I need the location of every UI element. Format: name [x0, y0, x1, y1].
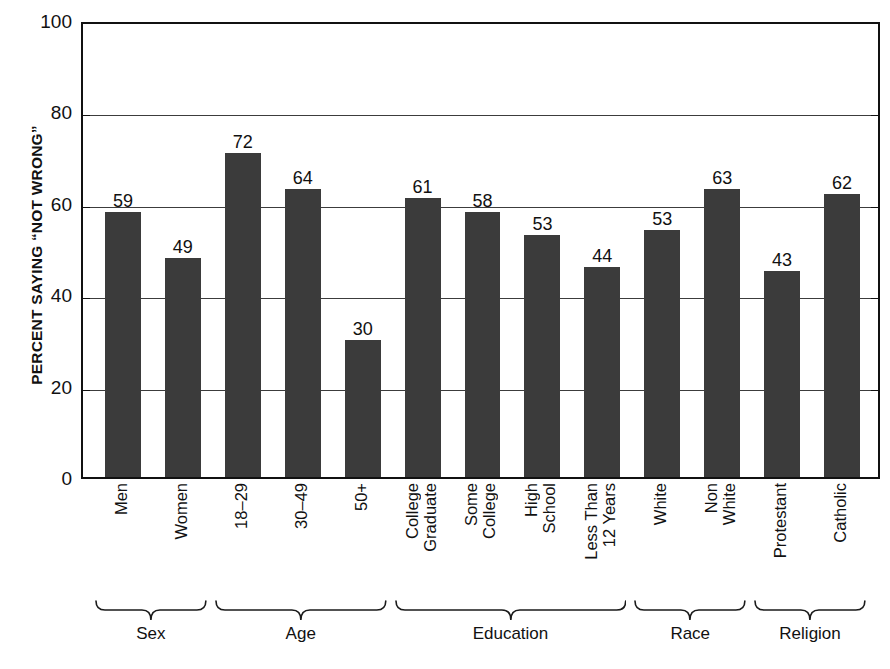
x-axis-group: Religion: [754, 600, 866, 669]
bar: [225, 153, 261, 477]
bar-value-label: 58: [453, 192, 513, 210]
x-axis-label-line: Graduate: [421, 483, 439, 552]
bar-value-label: 44: [572, 247, 632, 265]
y-axis-tick-40: 40: [26, 286, 72, 305]
x-axis-label: Less Than12 Years: [570, 483, 630, 595]
x-axis-label: White: [630, 483, 690, 595]
bar-chart: PERCENT SAYING “NOT WRONG” 020406080100 …: [0, 0, 890, 669]
x-axis-label-line: Non: [702, 483, 720, 513]
group-brace-icon: [634, 600, 746, 622]
x-axis-label: 50+: [331, 483, 391, 595]
bar: [644, 230, 680, 477]
x-axis-label-line: College: [480, 483, 498, 539]
bar-value-label: 64: [273, 169, 333, 187]
bars-container: 59497264306158534453634362: [83, 24, 878, 477]
x-axis-label: 30–49: [271, 483, 331, 595]
bar: [465, 212, 501, 477]
bar: [345, 340, 381, 477]
x-axis-label-line: White: [720, 483, 738, 525]
x-axis-label-line: Some: [462, 483, 480, 526]
x-axis-label-line: Women: [172, 483, 190, 540]
bar-value-label: 53: [632, 210, 692, 228]
x-axis-label: NonWhite: [690, 483, 750, 595]
x-axis-label-line: White: [651, 483, 669, 525]
x-axis-label-line: Protestant: [771, 483, 789, 558]
bar-value-label: 63: [692, 169, 752, 187]
x-axis-label-line: 50+: [352, 483, 370, 511]
bar: [405, 198, 441, 477]
x-axis-label: Men: [91, 483, 151, 595]
x-axis-label-line: Catholic: [831, 483, 849, 543]
bar: [584, 267, 620, 477]
x-axis-label-line: Men: [112, 483, 130, 515]
y-axis-tick-0: 0: [26, 469, 72, 488]
plot-area: 59497264306158534453634362: [81, 22, 880, 479]
bar-value-label: 53: [512, 215, 572, 233]
x-axis-label-line: 18–29: [232, 483, 250, 529]
x-axis-group: Sex: [95, 600, 207, 669]
x-axis-label: 18–29: [211, 483, 271, 595]
y-axis-tick-60: 60: [26, 195, 72, 214]
bar-value-label: 49: [153, 238, 213, 256]
bar-value-label: 30: [333, 320, 393, 338]
x-axis-label: Catholic: [810, 483, 870, 595]
bar-value-label: 62: [812, 174, 872, 192]
bar: [285, 189, 321, 477]
group-brace-icon: [395, 600, 627, 622]
x-axis-group: Race: [634, 600, 746, 669]
y-axis-tick-20: 20: [26, 378, 72, 397]
y-axis-tick-labels: 020406080100: [22, 0, 72, 669]
x-axis-label: Women: [151, 483, 211, 595]
y-axis-tick-80: 80: [26, 103, 72, 122]
x-axis-label: HighSchool: [510, 483, 570, 595]
x-axis-label: SomeCollege: [451, 483, 511, 595]
group-label: Race: [634, 624, 746, 644]
y-axis-tick-100: 100: [26, 12, 72, 31]
bar: [105, 212, 141, 477]
x-axis-group: Education: [395, 600, 627, 669]
bar-value-label: 59: [93, 192, 153, 210]
bar: [165, 258, 201, 477]
bar-value-label: 72: [213, 133, 273, 151]
x-axis-label-line: 30–49: [292, 483, 310, 529]
bar-value-label: 43: [752, 251, 812, 269]
bar: [824, 194, 860, 477]
x-axis-label-line: High: [522, 483, 540, 517]
x-axis-label: Protestant: [750, 483, 810, 595]
x-axis-group: Age: [215, 600, 387, 669]
bar: [524, 235, 560, 477]
x-axis-label-line: College: [403, 483, 421, 539]
bar-value-label: 61: [393, 178, 453, 196]
x-axis-label-line: School: [540, 483, 558, 533]
group-brace-icon: [95, 600, 207, 622]
x-axis-category-labels: MenWomen18–2930–4950+CollegeGraduateSome…: [81, 483, 880, 595]
x-axis-label-line: Less Than: [582, 483, 600, 560]
x-axis-group-braces: SexAgeEducationRaceReligion: [81, 600, 880, 669]
group-label: Religion: [754, 624, 866, 644]
group-label: Education: [395, 624, 627, 644]
group-brace-icon: [754, 600, 866, 622]
bar: [704, 189, 740, 477]
x-axis-label-line: 12 Years: [600, 483, 618, 547]
group-label: Sex: [95, 624, 207, 644]
group-brace-icon: [215, 600, 387, 622]
x-axis-label: CollegeGraduate: [391, 483, 451, 595]
bar: [764, 271, 800, 477]
group-label: Age: [215, 624, 387, 644]
